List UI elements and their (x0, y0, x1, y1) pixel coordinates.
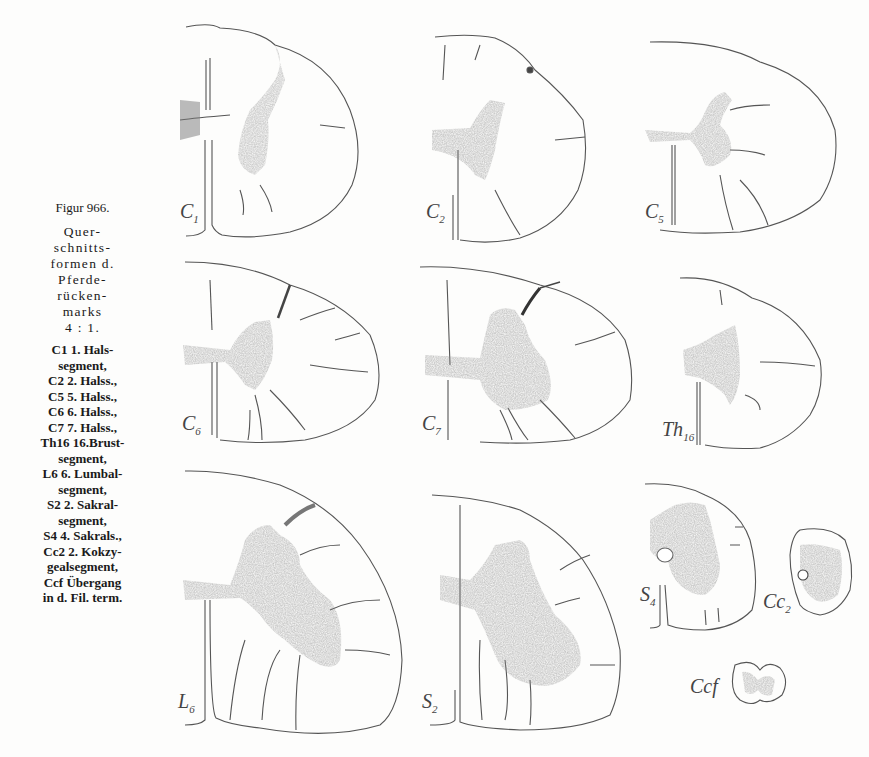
label-c1: C1 (180, 200, 199, 225)
label-ccf: Ccf (690, 675, 718, 700)
label-c6: C6 (182, 412, 201, 437)
spinal-cord-sections-figure (0, 0, 869, 757)
section-c1 (180, 25, 358, 237)
label-c2: C2 (426, 200, 445, 225)
label-s4: S4 (640, 583, 656, 608)
label-c7: C7 (422, 412, 441, 437)
label-th16: Th16 (662, 418, 694, 443)
label-s2: S2 (422, 690, 438, 715)
label-cc2: Cc2 (763, 590, 791, 615)
label-c5: C5 (645, 200, 664, 225)
label-l6: L6 (178, 690, 195, 715)
